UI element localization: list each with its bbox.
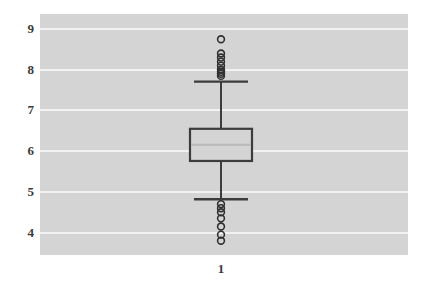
- x-tick-label-1: 1: [218, 262, 225, 275]
- box-plot-layer: [40, 14, 408, 255]
- outlier-low-4: [218, 223, 225, 230]
- y-tick-label-4: 4: [4, 226, 34, 239]
- y-tick-label-7: 7: [4, 103, 34, 116]
- y-tick-label-8: 8: [4, 63, 34, 76]
- y-tick-label-5: 5: [4, 185, 34, 198]
- y-axis-tick-labels: 987654: [0, 0, 34, 294]
- x-axis-tick-labels: 1: [40, 262, 408, 286]
- plot-area: [40, 14, 408, 255]
- outlier-high-0: [218, 36, 225, 43]
- y-tick-label-9: 9: [4, 22, 34, 35]
- y-tick-label-6: 6: [4, 144, 34, 157]
- box-plot-figure: 987654 1: [0, 0, 427, 294]
